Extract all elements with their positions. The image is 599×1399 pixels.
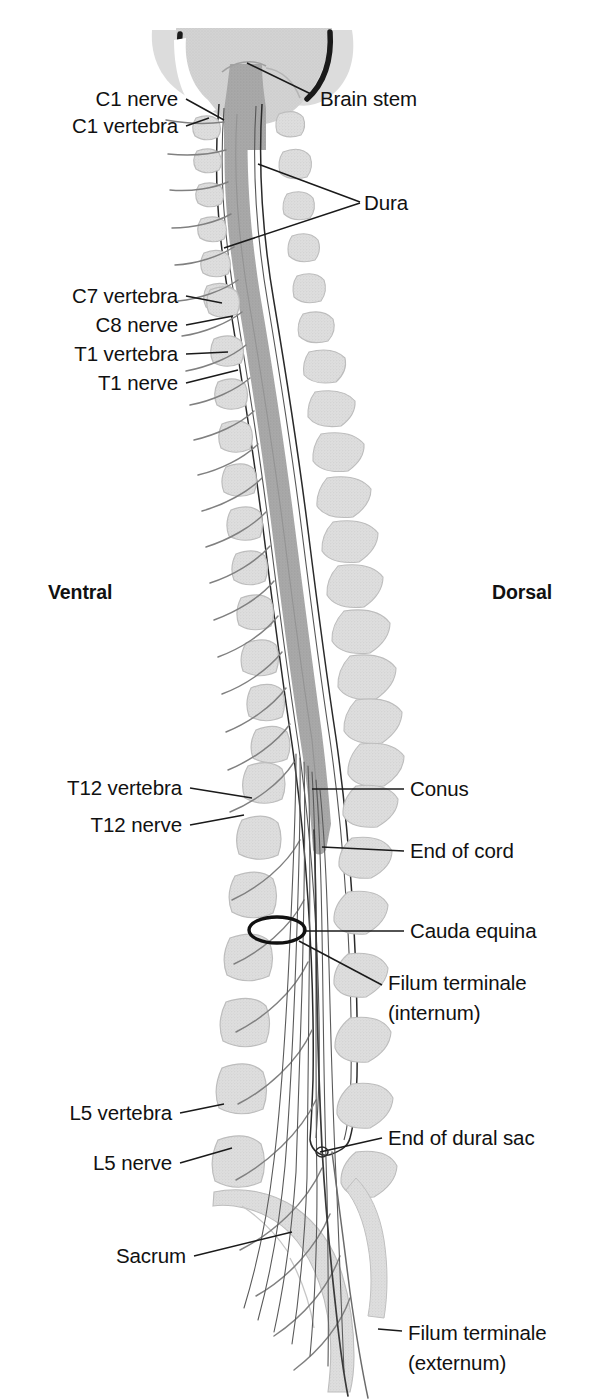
label-dorsal: Dorsal bbox=[492, 580, 552, 605]
label-cauda-equina: Cauda equina bbox=[410, 918, 536, 943]
leader-c8-nerve bbox=[186, 316, 233, 325]
vertebra-c3 bbox=[196, 183, 224, 207]
vertebra-t7 bbox=[237, 595, 274, 630]
vertebra-t5 bbox=[227, 507, 263, 540]
leader-sacrum bbox=[194, 1232, 292, 1256]
spinous-t6 bbox=[332, 610, 390, 654]
spinous-t2 bbox=[313, 433, 364, 472]
leader-l5-vertebra bbox=[180, 1104, 224, 1113]
spinous-c7 bbox=[304, 350, 346, 383]
label-t12-nerve: T12 nerve bbox=[0, 812, 182, 837]
diagram-canvas: C1 nerve C1 vertebra Brain stem Dura C7 … bbox=[0, 0, 599, 1399]
label-t1-vertebra: T1 vertebra bbox=[0, 341, 178, 366]
spinous-t9 bbox=[348, 743, 404, 786]
leader-end-dural-sac bbox=[320, 1138, 382, 1152]
vertebra-t4 bbox=[222, 464, 257, 496]
spinous-c3 bbox=[283, 192, 314, 220]
label-ventral: Ventral bbox=[48, 580, 112, 605]
label-c1-vertebra: C1 vertebra bbox=[0, 113, 178, 138]
vertebra-l1 bbox=[229, 872, 276, 918]
leader-t12-nerve bbox=[190, 815, 244, 825]
label-conus: Conus bbox=[410, 776, 469, 801]
label-filum-terminale-externum: Filum terminale (externum) bbox=[408, 1318, 547, 1378]
vertebra-c5 bbox=[201, 250, 231, 276]
sacral-crest-shape bbox=[346, 1178, 387, 1318]
vertebra-t12 bbox=[237, 816, 281, 859]
label-end-of-cord: End of cord bbox=[410, 838, 514, 863]
spinous-t10 bbox=[343, 785, 398, 827]
label-t1-nerve: T1 nerve bbox=[0, 370, 178, 395]
label-brain-stem: Brain stem bbox=[320, 86, 417, 111]
spinous-t4 bbox=[322, 521, 378, 563]
leader-filum-externum bbox=[378, 1329, 402, 1331]
label-t12-vertebra: T12 vertebra bbox=[0, 775, 182, 800]
vertebra-c4 bbox=[198, 217, 227, 242]
spine-anatomy-illustration bbox=[0, 0, 599, 1399]
label-sacrum: Sacrum bbox=[0, 1243, 186, 1268]
sacral-segment-line-2 bbox=[290, 1258, 314, 1328]
label-dura: Dura bbox=[364, 190, 408, 215]
vertebra-t6 bbox=[232, 551, 268, 585]
label-c8-nerve: C8 nerve bbox=[0, 312, 178, 337]
spinous-c4 bbox=[288, 234, 319, 262]
vertebra-c7 bbox=[207, 287, 240, 317]
vertebra-l3 bbox=[220, 998, 269, 1046]
spinous-t7 bbox=[338, 655, 396, 700]
label-filum-terminale-internum: Filum terminale (internum) bbox=[388, 968, 527, 1028]
spinous-t5 bbox=[327, 565, 383, 608]
spinous-l1 bbox=[334, 953, 388, 997]
spinous-c1 bbox=[276, 112, 305, 137]
spinous-c5 bbox=[293, 274, 325, 303]
spinous-l2 bbox=[335, 1017, 391, 1062]
label-c1-nerve: C1 nerve bbox=[0, 86, 178, 111]
spinous-t8 bbox=[344, 699, 402, 744]
label-l5-nerve: L5 nerve bbox=[0, 1150, 172, 1175]
vertebra-l4 bbox=[216, 1064, 266, 1114]
spinous-t3 bbox=[317, 477, 371, 518]
spinous-t11 bbox=[339, 837, 392, 878]
spinous-c6 bbox=[298, 312, 334, 343]
spinous-l3 bbox=[337, 1083, 393, 1128]
label-end-of-dural-sac: End of dural sac bbox=[388, 1125, 535, 1150]
vertebra-t8 bbox=[241, 640, 278, 676]
label-c7-vertebra: C7 vertebra bbox=[0, 283, 178, 308]
spinous-t1 bbox=[308, 391, 355, 427]
vertebra-t9 bbox=[247, 684, 285, 720]
label-l5-vertebra: L5 vertebra bbox=[0, 1100, 172, 1125]
vertebra-t3 bbox=[219, 421, 253, 452]
spinous-t12 bbox=[334, 891, 388, 934]
